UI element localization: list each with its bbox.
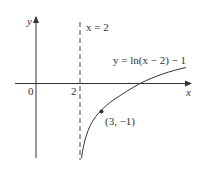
y-axis-label: y [26,15,32,27]
origin-label: 0 [28,85,34,97]
graph-canvas: y x 0 2 x = 2 y = ln(x − 2) − 1 (3, −1) [0,0,201,173]
x-axis-label: x [185,86,191,98]
asymptote-label: x = 2 [86,21,109,33]
tick-label-2: 2 [71,85,77,97]
curve-equation-label: y = ln(x − 2) − 1 [113,54,186,67]
point-marker [100,110,104,114]
point-label: (3, −1) [105,115,135,128]
function-curve [82,68,187,159]
